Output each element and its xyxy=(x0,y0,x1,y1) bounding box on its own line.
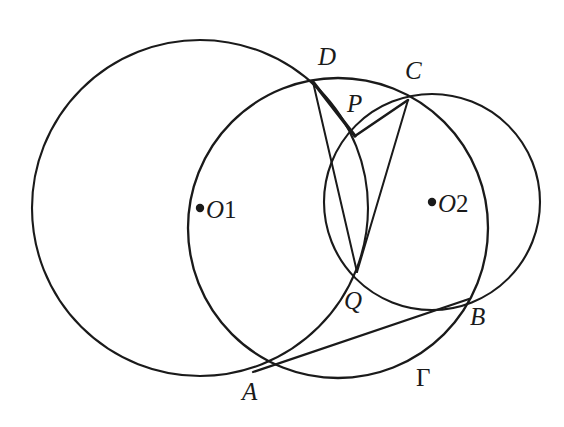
center-label-o1-name: O xyxy=(206,196,224,223)
point-label-b: B xyxy=(470,304,485,329)
circle-gamma xyxy=(188,78,488,378)
center-label-o2-name: O xyxy=(438,190,456,217)
point-label-q: Q xyxy=(344,288,362,313)
point-label-a: A xyxy=(242,379,257,404)
center-label-o1: O1 xyxy=(206,197,237,222)
point-label-d: D xyxy=(318,44,336,69)
circle-label-gamma: Γ xyxy=(416,365,430,390)
geometry-canvas xyxy=(0,0,564,427)
geometry-figure: D C P Q A B Γ O1 O2 xyxy=(0,0,564,427)
segment-cq xyxy=(357,100,408,272)
point-label-c: C xyxy=(405,58,422,83)
center-label-o2: O2 xyxy=(438,191,469,216)
center-label-o1-subscript: 1 xyxy=(224,196,237,223)
center-label-o2-subscript: 2 xyxy=(456,190,469,217)
point-label-p: P xyxy=(347,91,362,116)
center-dot-o2 xyxy=(428,198,436,206)
center-dot-o1 xyxy=(196,204,204,212)
